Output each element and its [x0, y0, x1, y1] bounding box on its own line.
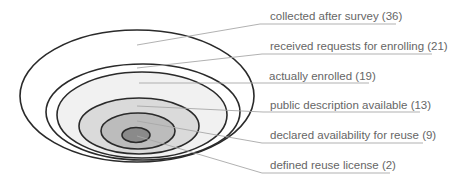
label-requests: received requests for enrolling (21)	[270, 39, 448, 53]
label-enrolled: actually enrolled (19)	[269, 69, 376, 83]
nested-ellipse-diagram	[0, 0, 452, 183]
label-collected: collected after survey (36)	[270, 9, 402, 23]
ellipse-reuse-license	[122, 128, 150, 143]
label-public-description: public description available (13)	[270, 98, 431, 112]
label-reuse-license: defined reuse license (2)	[270, 158, 396, 172]
label-declared-reuse: declared availability for reuse (9)	[270, 128, 436, 142]
